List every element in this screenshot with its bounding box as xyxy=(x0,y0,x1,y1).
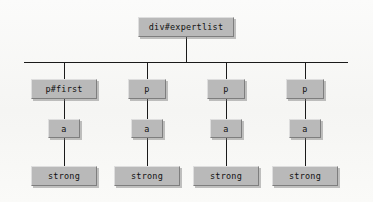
node-label: strong xyxy=(210,171,242,181)
node-strong-col1: strong xyxy=(31,166,97,186)
connector-p-first-to-a-col1 xyxy=(64,99,65,119)
connector-a-to-strong-col4 xyxy=(305,138,306,166)
connector-horizontal-bus xyxy=(24,62,348,63)
connector-p-to-a-col3 xyxy=(226,99,227,119)
node-div-expertlist: div#expertlist xyxy=(138,17,234,37)
connector-a-to-strong-col1 xyxy=(64,138,65,166)
node-strong-col4: strong xyxy=(272,166,338,186)
node-a-col1: a xyxy=(48,119,80,138)
node-a-col2: a xyxy=(131,119,163,138)
connector-bus-to-column-3 xyxy=(226,62,227,79)
node-p-col2: p xyxy=(128,79,166,99)
connector-bus-to-column-2 xyxy=(147,62,148,79)
connector-p-to-a-col2 xyxy=(147,99,148,119)
node-label: p xyxy=(144,84,149,94)
node-label: p#first xyxy=(45,84,82,94)
connector-bus-to-column-1 xyxy=(64,62,65,79)
node-a-col3: a xyxy=(210,119,242,138)
node-label: a xyxy=(61,124,66,134)
connector-root-to-bus xyxy=(186,37,187,62)
node-strong-col2: strong xyxy=(114,166,180,186)
connector-a-to-strong-col3 xyxy=(226,138,227,166)
node-a-col4: a xyxy=(289,119,321,138)
node-label: strong xyxy=(48,171,80,181)
node-strong-col3: strong xyxy=(193,166,259,186)
node-p-col4: p xyxy=(286,79,324,99)
node-label: p xyxy=(302,84,307,94)
node-label: a xyxy=(302,124,307,134)
node-p-col3: p xyxy=(207,79,245,99)
node-label: p xyxy=(223,84,228,94)
connector-bus-to-column-4 xyxy=(305,62,306,79)
connector-a-to-strong-col2 xyxy=(147,138,148,166)
dom-tree-diagram: div#expertlist p#firstastrongpastrongpas… xyxy=(0,0,373,202)
node-label: a xyxy=(144,124,149,134)
connector-p-to-a-col4 xyxy=(305,99,306,119)
node-label: strong xyxy=(131,171,163,181)
node-p-first-col1: p#first xyxy=(31,79,97,99)
node-label: strong xyxy=(289,171,321,181)
node-label: a xyxy=(223,124,228,134)
